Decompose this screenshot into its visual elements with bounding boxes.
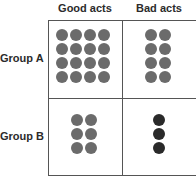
act-dot	[145, 71, 157, 83]
column-header-bad-acts: Bad acts	[122, 2, 196, 14]
act-dot	[70, 57, 82, 69]
act-dot	[84, 43, 96, 55]
act-dot	[56, 71, 68, 83]
act-dot	[56, 57, 68, 69]
act-dot	[98, 57, 110, 69]
act-dot	[84, 71, 96, 83]
act-dot	[159, 57, 171, 69]
cell-group-b-good-acts	[71, 114, 97, 154]
act-dot	[153, 114, 165, 126]
act-dot	[56, 29, 68, 41]
act-dot	[70, 43, 82, 55]
act-dot	[159, 71, 171, 83]
act-dot	[71, 128, 83, 140]
cell-group-a-good-acts	[56, 29, 110, 83]
act-dot	[84, 29, 96, 41]
cell-group-b-bad-acts	[153, 114, 165, 154]
act-dot	[98, 43, 110, 55]
table-divider-horizontal	[48, 98, 196, 99]
row-header-group-b: Group B	[0, 130, 46, 142]
act-dot	[145, 43, 157, 55]
act-dot	[56, 43, 68, 55]
act-dot	[85, 142, 97, 154]
act-dot	[84, 57, 96, 69]
cell-group-a-bad-acts	[145, 29, 171, 83]
act-dot	[153, 128, 165, 140]
act-dot	[159, 29, 171, 41]
act-dot	[85, 114, 97, 126]
table-border-bottom	[48, 175, 196, 176]
column-header-good-acts: Good acts	[48, 2, 122, 14]
act-dot	[159, 43, 171, 55]
row-header-group-a: Group A	[0, 52, 46, 64]
act-dot	[85, 128, 97, 140]
act-dot	[145, 29, 157, 41]
act-dot	[98, 29, 110, 41]
act-dot	[71, 142, 83, 154]
act-dot	[71, 114, 83, 126]
act-dot	[145, 57, 157, 69]
act-dot	[70, 71, 82, 83]
act-dot	[70, 29, 82, 41]
act-dot	[153, 142, 165, 154]
act-dot	[98, 71, 110, 83]
